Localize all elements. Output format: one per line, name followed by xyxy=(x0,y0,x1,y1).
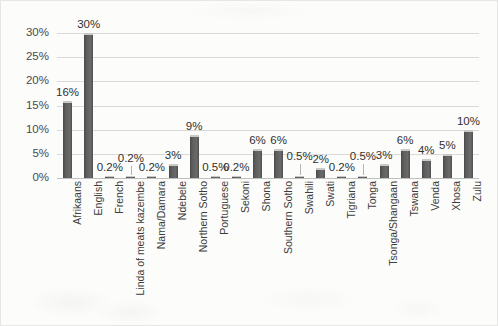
x-axis-category-label: Venda xyxy=(430,181,441,211)
x-axis-category-label: Tigriana xyxy=(346,181,357,219)
x-axis-category-label: Tswana xyxy=(409,181,420,217)
bar-value-label: 0.5% xyxy=(350,151,376,163)
bar-value-label: 3% xyxy=(165,150,182,162)
bar xyxy=(84,33,93,178)
x-axis-category-label: Shona xyxy=(261,181,272,211)
bar xyxy=(169,164,178,179)
x-axis-category-label: Northern Sotho xyxy=(198,181,209,252)
gridline xyxy=(57,106,479,107)
x-axis-category-label: Linda of meats kazembe xyxy=(135,181,146,295)
bar-value-label: 0.5% xyxy=(287,151,313,163)
y-axis: 0%5%10%15%20%25%30% xyxy=(1,33,53,178)
chart-frame: 0%5%10%15%20%25%30% 16%30%0.2%0.2%0.2%3%… xyxy=(0,0,498,326)
x-axis-category-label: Sekoni xyxy=(240,181,251,213)
y-axis-tick-label: 20% xyxy=(3,76,49,88)
gridline xyxy=(57,81,479,82)
bar xyxy=(380,164,389,179)
y-axis-tick-label: 15% xyxy=(3,100,49,112)
bar xyxy=(190,135,199,179)
bar-value-label: 0.2% xyxy=(223,162,249,174)
bar-value-label: 16% xyxy=(56,87,79,99)
bar xyxy=(337,176,346,179)
gridline xyxy=(57,130,479,131)
x-axis-category-label: Tsonga/Shangaan xyxy=(388,181,399,266)
bar xyxy=(401,149,410,178)
bar xyxy=(105,176,114,179)
x-axis-category-label: French xyxy=(114,181,125,214)
bar-value-label: 0.2% xyxy=(139,162,165,174)
y-axis-tick-label: 30% xyxy=(3,27,49,39)
x-axis-category-label: Swahili xyxy=(304,181,315,214)
bar-value-label: 4% xyxy=(418,145,435,157)
x-axis-category-label: Tonga xyxy=(367,181,378,210)
gridline xyxy=(57,57,479,58)
label-leader-line xyxy=(131,166,132,176)
x-axis-category-label: Ndebele xyxy=(177,181,188,220)
bar xyxy=(63,101,72,178)
x-axis-category-label: English xyxy=(93,181,104,215)
bar xyxy=(253,149,262,178)
bar-value-label: 6% xyxy=(270,135,287,147)
x-axis-category-label: Portuguese xyxy=(219,181,230,235)
bar xyxy=(295,176,304,179)
bar xyxy=(211,176,220,179)
x-axis: AfrikaansEnglishFrenchLinda of meats kaz… xyxy=(57,181,479,301)
bar xyxy=(147,176,156,179)
bar-value-label: 6% xyxy=(249,135,266,147)
plot-area: 16%30%0.2%0.2%0.2%3%9%0.5%0.2%6%6%0.5%2%… xyxy=(57,33,479,178)
bar xyxy=(274,149,283,178)
x-axis-category-label: Southern Sotho xyxy=(283,181,294,254)
bar-value-label: 0.2% xyxy=(329,162,355,174)
bar xyxy=(443,154,452,178)
y-axis-tick-label: 10% xyxy=(3,124,49,136)
bar xyxy=(316,168,325,178)
bar-value-label: 30% xyxy=(77,19,100,31)
label-leader-line xyxy=(300,164,301,175)
label-leader-line xyxy=(363,164,364,175)
bar xyxy=(126,176,135,179)
gridline xyxy=(57,33,479,34)
bar-value-label: 10% xyxy=(457,116,480,128)
x-axis-line xyxy=(57,178,479,179)
bar xyxy=(464,130,473,178)
y-axis-tick-label: 0% xyxy=(3,172,49,184)
bar-value-label: 3% xyxy=(376,150,393,162)
x-axis-category-label: Zulu xyxy=(472,181,483,201)
bar-value-label: 2% xyxy=(312,154,329,166)
y-axis-tick-label: 25% xyxy=(3,51,49,63)
x-axis-category-label: Swati xyxy=(325,181,336,207)
x-axis-category-label: Nama/Damara xyxy=(156,181,167,249)
bar-value-label: 6% xyxy=(397,135,414,147)
bar xyxy=(232,176,241,179)
bar-value-label: 9% xyxy=(186,121,203,133)
x-axis-category-label: Afrikaans xyxy=(72,181,83,225)
y-axis-tick-label: 5% xyxy=(3,148,49,160)
bar xyxy=(422,159,431,178)
x-axis-category-label: Xhosa xyxy=(451,181,462,211)
bar-value-label: 5% xyxy=(439,140,456,152)
bar xyxy=(358,176,367,179)
